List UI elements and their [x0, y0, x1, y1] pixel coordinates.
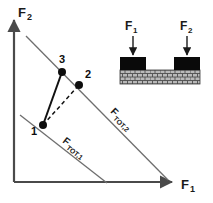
inset-force-2-label-base: F — [180, 19, 187, 33]
isoline-ftot1-label-subscript: TOT,1 — [64, 144, 84, 162]
x-axis-label-base: F — [181, 177, 189, 192]
isoline-ftot2-label: F TOT,2 — [106, 106, 134, 134]
connection-1-to-3 — [43, 72, 62, 125]
x-axis-label-subscript: 1 — [190, 184, 195, 194]
inset-right-block — [174, 57, 200, 70]
inset-schematic: F 1 F 2 — [120, 19, 200, 84]
data-point-2[interactable] — [75, 81, 83, 89]
inset-substrate — [120, 70, 200, 84]
inset-force-1-label-subscript: 1 — [133, 26, 138, 35]
inset-left-block — [120, 57, 146, 70]
data-point-2-label: 2 — [85, 68, 91, 80]
axes-group — [14, 20, 172, 182]
connections-group — [43, 72, 79, 125]
y-axis-label: F 2 — [18, 5, 32, 22]
figure-container: F 2 F 1 F TOT,1 F TOT,2 — [0, 0, 213, 203]
isoline-ftot2-label-subscript: TOT,2 — [111, 115, 130, 134]
inset-force-2-label: F 2 — [180, 19, 193, 35]
y-axis-label-subscript: 2 — [27, 12, 32, 22]
data-point-3[interactable] — [58, 68, 66, 76]
isoline-ftot2 — [26, 36, 168, 180]
inset-force-2-label-subscript: 2 — [188, 26, 193, 35]
x-axis-label: F 1 — [181, 177, 195, 194]
inset-force-1-label: F 1 — [125, 19, 138, 35]
force-diagram-svg: F 2 F 1 F TOT,1 F TOT,2 — [0, 0, 213, 203]
data-point-1[interactable] — [39, 121, 47, 129]
inset-force-1-label-base: F — [125, 19, 132, 33]
data-point-3-label: 3 — [59, 53, 65, 65]
y-axis-label-base: F — [18, 5, 26, 20]
data-point-1-label: 1 — [31, 125, 37, 137]
connection-1-to-2 — [43, 85, 79, 125]
